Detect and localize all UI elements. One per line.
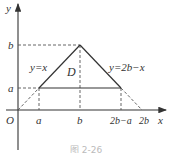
figure-caption: 图 2-26 bbox=[70, 145, 103, 153]
y-tick-a: a bbox=[8, 82, 14, 94]
x-axis-label: x bbox=[157, 114, 163, 126]
x-tick-a: a bbox=[36, 114, 42, 126]
dashed-guides bbox=[18, 45, 142, 110]
x-tick-b: b bbox=[77, 114, 83, 126]
x-tick-2b-minus-a: 2b−a bbox=[110, 115, 132, 126]
origin-label: O bbox=[6, 114, 14, 126]
y-axis-label: y bbox=[5, 2, 11, 14]
x-tick-2b: 2b bbox=[139, 115, 149, 126]
curve-label-y-eq-2b-minus-x: y=2b−x bbox=[108, 61, 145, 73]
y-tick-b: b bbox=[8, 39, 14, 51]
region-label-d: D bbox=[66, 65, 76, 79]
region-diagram: y x O b a a b 2b−a 2b y=x y=2b−x D 图 2-2… bbox=[0, 0, 172, 153]
curve-label-y-eq-x: y=x bbox=[29, 61, 47, 73]
